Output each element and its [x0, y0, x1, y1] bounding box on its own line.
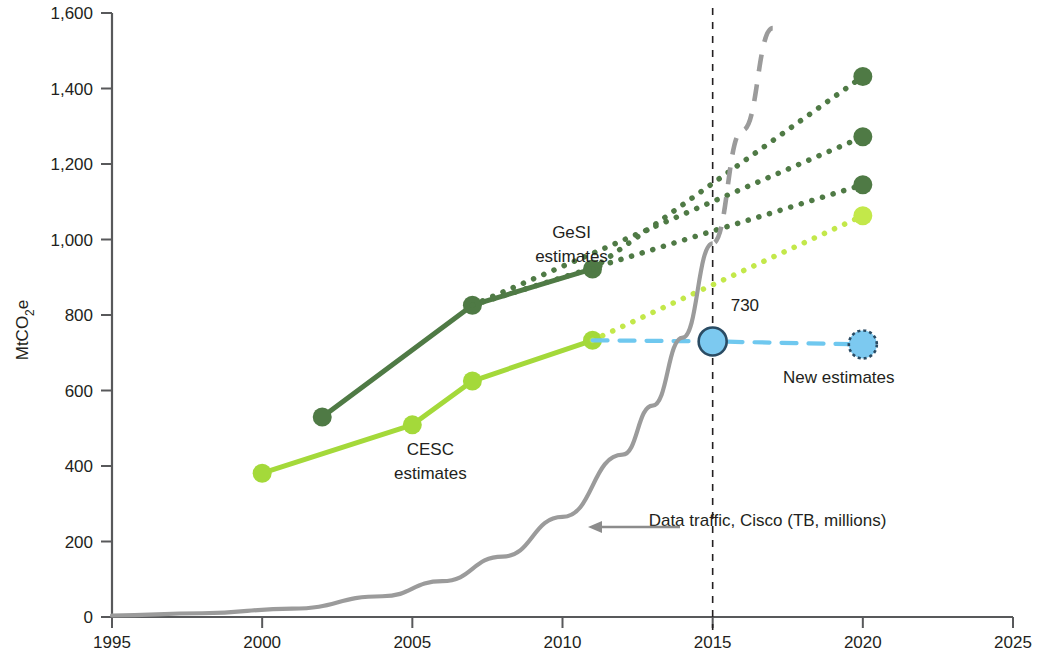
- svg-text:MtCO2e: MtCO2e: [13, 300, 37, 361]
- y-tick-label: 200: [65, 533, 93, 552]
- new-estimate-point-2020: [849, 330, 877, 358]
- x-tick-label: 2005: [393, 633, 431, 652]
- y-tick-label: 800: [65, 306, 93, 325]
- series-gesi-estimates-historical: [313, 259, 602, 426]
- cesc-label-2: estimates: [394, 464, 467, 483]
- y-axis-title-post: e: [13, 300, 32, 309]
- y-tick-label: 1,200: [50, 155, 93, 174]
- gesi-label-2: estimates: [535, 247, 608, 266]
- series-cesc-projection: [593, 206, 873, 340]
- x-axis-ticks: 1995200020052010201520202025: [93, 617, 1032, 652]
- new-estimates-label: New estimates: [783, 368, 894, 387]
- series-new-estimates: [593, 327, 877, 358]
- x-tick-label: 2010: [544, 633, 582, 652]
- gesi-label: GeSI: [552, 223, 591, 242]
- y-axis-title-pre: MtCO: [13, 316, 32, 360]
- line-chart: 02004006008001,0001,2001,4001,600 199520…: [0, 0, 1043, 653]
- y-tick-label: 1,400: [50, 80, 93, 99]
- y-tick-label: 0: [84, 608, 93, 627]
- y-tick-label: 600: [65, 382, 93, 401]
- value-730: 730: [731, 296, 759, 315]
- x-tick-label: 2020: [844, 633, 882, 652]
- series-cesc-estimates-historical: [253, 331, 602, 483]
- cesc-label: CESC: [407, 440, 454, 459]
- y-axis-title: MtCO2e: [13, 300, 37, 361]
- cisco-label: Data traffic, Cisco (TB, millions): [649, 511, 887, 530]
- chart-container: 02004006008001,0001,2001,4001,600 199520…: [0, 0, 1043, 653]
- y-tick-label: 1,000: [50, 231, 93, 250]
- x-tick-label: 2025: [994, 633, 1032, 652]
- y-axis-ticks: 02004006008001,0001,2001,4001,600: [50, 4, 112, 627]
- x-tick-label: 2015: [694, 633, 732, 652]
- y-tick-label: 400: [65, 457, 93, 476]
- x-tick-label: 1995: [93, 633, 131, 652]
- x-tick-label: 2000: [243, 633, 281, 652]
- y-tick-label: 1,600: [50, 4, 93, 23]
- series-gesi-projection-mid: [472, 127, 872, 305]
- new-estimate-point-2015: [699, 327, 727, 355]
